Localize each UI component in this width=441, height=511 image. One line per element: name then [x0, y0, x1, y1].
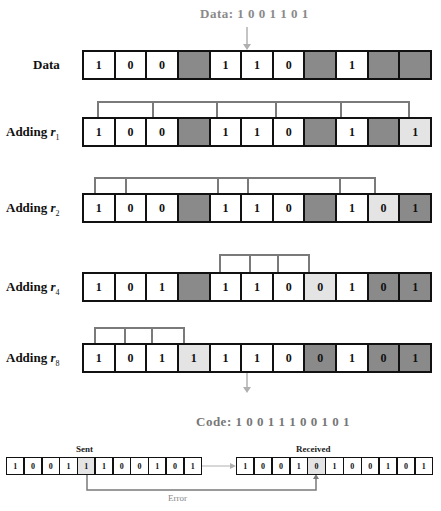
bit-cell: 0 [255, 458, 271, 474]
row-label-sub: 4 [56, 288, 60, 297]
bit-cell: 0 [398, 458, 414, 474]
bit-cell: 1 [211, 52, 241, 78]
bit-cell: 1 [211, 119, 241, 145]
bit-cell: 1 [96, 458, 112, 474]
bit-cell: 1 [242, 345, 272, 371]
bit-cell: 1 [380, 458, 396, 474]
code-label: Code: [196, 414, 232, 429]
bit-cell: 0 [308, 458, 324, 474]
bit-cell: 0 [147, 52, 177, 78]
r8-bracket [95, 328, 184, 343]
bit-cell: 1 [84, 345, 114, 371]
bit-cell: 1 [242, 274, 272, 300]
bit-cell: 1 [211, 195, 241, 221]
row-label-text: Adding [6, 124, 50, 139]
bit-cell: 0 [274, 274, 304, 300]
bit-cell: 1 [211, 274, 241, 300]
code-title: Code: 1 0 0 1 1 1 0 0 1 0 1 [196, 414, 350, 430]
bit-cell [179, 119, 209, 145]
bit-cell: 1 [78, 458, 94, 474]
row-label-text: Adding [6, 200, 50, 215]
bit-cell [369, 119, 399, 145]
bit-cell: 0 [369, 195, 399, 221]
bit-cell: 0 [43, 458, 59, 474]
bit-cell: 1 [400, 274, 430, 300]
bit-cell: 0 [116, 52, 146, 78]
bit-cell: 1 [84, 52, 114, 78]
bit-cell: 0 [25, 458, 41, 474]
bit-cell: 1 [84, 274, 114, 300]
bit-cell [369, 52, 399, 78]
row-label: Adding r4 [6, 279, 60, 297]
bit-cell: 0 [116, 195, 146, 221]
row-label-sub: 8 [56, 359, 60, 368]
bit-cell: 0 [147, 195, 177, 221]
bit-cell: 1 [242, 52, 272, 78]
bit-cell: 1 [337, 52, 367, 78]
bit-cell: 1 [237, 458, 253, 474]
bit-row: 10111100101 [82, 343, 432, 373]
bit-cell: 1 [337, 119, 367, 145]
row-label: Adding r2 [6, 200, 60, 218]
sent-label: Sent [76, 444, 93, 454]
row-label: Data [33, 57, 60, 73]
bit-cell: 1 [84, 195, 114, 221]
bit-cell: 1 [337, 195, 367, 221]
bit-cell [305, 119, 335, 145]
bit-cell: 0 [369, 345, 399, 371]
bit-cell: 0 [116, 274, 146, 300]
sent-strip: 10011100101 [6, 457, 202, 475]
r2-bracket [95, 178, 375, 193]
bit-cell: 1 [147, 345, 177, 371]
bit-cell: 1 [400, 345, 430, 371]
r1-bracket [98, 102, 409, 117]
bit-row: 10011011 [82, 117, 432, 147]
bit-cell: 0 [274, 119, 304, 145]
bit-cell: 0 [369, 274, 399, 300]
bit-cell [305, 52, 335, 78]
bit-cell: 0 [116, 345, 146, 371]
bit-cell: 0 [362, 458, 378, 474]
row-label-sub: 2 [56, 209, 60, 218]
bit-cell: 1 [84, 119, 114, 145]
received-strip: 10010100101 [236, 457, 433, 475]
bit-cell: 1 [291, 458, 307, 474]
bit-cell: 0 [167, 458, 183, 474]
bit-cell: 0 [131, 458, 147, 474]
bit-cell: 0 [305, 345, 335, 371]
bit-row: 1011100101 [82, 272, 432, 302]
bit-cell: 1 [242, 119, 272, 145]
bit-cell: 0 [273, 458, 289, 474]
bit-cell: 1 [400, 195, 430, 221]
data-title-bits: 1 0 0 1 1 0 1 [237, 6, 309, 21]
row-label-sub: 1 [56, 133, 60, 142]
row-label-text: Adding [6, 350, 50, 365]
r4-bracket [220, 255, 309, 272]
bit-cell: 1 [147, 274, 177, 300]
bit-cell [400, 52, 430, 78]
bit-cell: 1 [179, 345, 209, 371]
bit-cell: 0 [274, 52, 304, 78]
bit-cell: 0 [344, 458, 360, 474]
row-label: Adding r8 [6, 350, 60, 368]
bit-row: 1001101 [82, 50, 432, 80]
bit-cell: 0 [147, 119, 177, 145]
bit-cell: 1 [211, 345, 241, 371]
bit-cell: 0 [274, 345, 304, 371]
bit-cell: 1 [60, 458, 76, 474]
bit-cell [179, 52, 209, 78]
bit-cell: 0 [274, 195, 304, 221]
bit-cell: 1 [326, 458, 342, 474]
bit-row: 100110101 [82, 193, 432, 223]
bit-cell: 0 [114, 458, 130, 474]
bit-cell [179, 274, 209, 300]
bit-cell: 0 [305, 274, 335, 300]
bit-cell [305, 195, 335, 221]
bit-cell: 1 [149, 458, 165, 474]
bit-cell: 1 [7, 458, 23, 474]
bit-cell: 1 [400, 119, 430, 145]
bit-cell: 1 [242, 195, 272, 221]
data-title-label: Data: [200, 6, 234, 21]
bit-cell [179, 195, 209, 221]
row-label-text: Adding [6, 279, 50, 294]
